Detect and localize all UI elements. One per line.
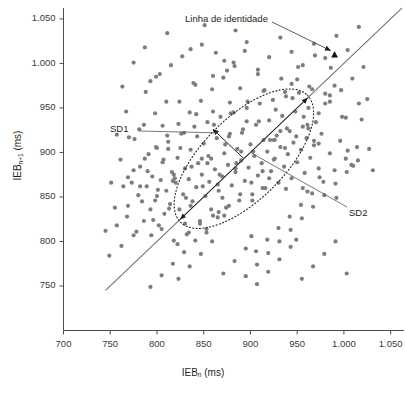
data-point: [218, 173, 222, 177]
y-axis-title-subscript: n+1: [17, 153, 24, 164]
data-point: [205, 120, 209, 124]
data-point: [323, 101, 327, 105]
data-point: [222, 151, 226, 155]
figure-caption: [0, 386, 406, 395]
data-point: [181, 192, 185, 196]
x-axis-ticks: [64, 331, 391, 335]
data-point: [148, 79, 152, 83]
data-point: [232, 259, 236, 263]
data-point: [118, 157, 122, 161]
data-point: [367, 147, 371, 151]
data-point: [283, 146, 287, 150]
data-point: [278, 129, 282, 133]
data-point: [283, 90, 287, 94]
data-point: [277, 239, 281, 243]
data-point: [294, 238, 298, 242]
data-point: [241, 127, 245, 131]
data-point: [126, 175, 130, 179]
data-point: [233, 28, 237, 32]
data-point: [266, 251, 270, 255]
data-point: [344, 157, 348, 161]
data-point: [232, 64, 236, 68]
data-point: [268, 138, 272, 142]
data-point: [267, 176, 271, 180]
data-point: [289, 82, 293, 86]
data-point: [278, 145, 282, 149]
data-point: [192, 125, 196, 129]
data-point: [282, 165, 286, 169]
data-point: [256, 72, 260, 76]
data-point: [160, 227, 164, 231]
data-point: [256, 68, 260, 72]
data-point: [266, 270, 270, 274]
data-point: [286, 152, 290, 156]
data-point: [230, 183, 234, 187]
data-point: [190, 199, 194, 203]
data-point: [220, 196, 224, 200]
scatter-points-group: [103, 23, 375, 289]
data-point: [297, 91, 301, 95]
data-point: [237, 198, 241, 202]
data-point: [143, 157, 147, 161]
x-tick-label: 1.050: [367, 338, 406, 349]
data-point: [340, 115, 344, 119]
data-point: [238, 192, 242, 196]
data-point: [177, 207, 181, 211]
data-point: [355, 145, 359, 149]
data-point: [240, 131, 244, 135]
data-point: [306, 126, 310, 130]
data-point: [165, 31, 169, 35]
data-point: [294, 134, 298, 138]
data-point: [158, 72, 162, 76]
data-point: [346, 48, 350, 52]
data-point: [194, 112, 198, 116]
data-point: [272, 157, 276, 161]
sd1-leader-line: [139, 131, 218, 133]
data-point: [187, 230, 191, 234]
data-point: [216, 215, 220, 219]
data-point: [194, 185, 198, 189]
data-point: [155, 194, 159, 198]
data-point: [371, 168, 375, 172]
data-point: [222, 214, 226, 218]
data-point: [261, 186, 265, 190]
data-point: [146, 152, 150, 156]
data-point: [255, 263, 259, 267]
sd1-annotation: SD1: [110, 123, 128, 134]
data-point: [243, 49, 247, 53]
data-point: [210, 239, 214, 243]
y-tick-label: 950: [8, 101, 56, 112]
y-tick-label: 800: [8, 235, 56, 246]
data-point: [312, 139, 316, 143]
data-point: [250, 198, 254, 202]
data-point: [351, 164, 355, 168]
data-point: [301, 125, 305, 129]
data-point: [227, 204, 231, 208]
data-point: [280, 114, 284, 118]
data-point: [196, 161, 200, 165]
data-point: [305, 190, 309, 194]
data-point: [165, 133, 169, 137]
data-point: [261, 169, 265, 173]
data-point: [167, 206, 171, 210]
y-tick-label: 750: [8, 279, 56, 290]
data-point: [143, 45, 147, 49]
data-point: [245, 40, 249, 44]
data-point: [189, 165, 193, 169]
data-point: [295, 77, 299, 81]
data-point: [295, 160, 299, 164]
data-point: [193, 238, 197, 242]
data-point: [249, 181, 253, 185]
data-point: [154, 145, 158, 149]
data-point: [199, 252, 203, 256]
data-point: [160, 273, 164, 277]
data-point: [339, 88, 343, 92]
data-point: [277, 257, 281, 261]
data-point: [289, 228, 293, 232]
data-point: [300, 277, 304, 281]
data-point: [272, 138, 276, 142]
data-point: [176, 277, 180, 281]
data-point: [269, 169, 273, 173]
data-point: [306, 106, 310, 110]
x-tick-label: 900: [226, 338, 274, 349]
